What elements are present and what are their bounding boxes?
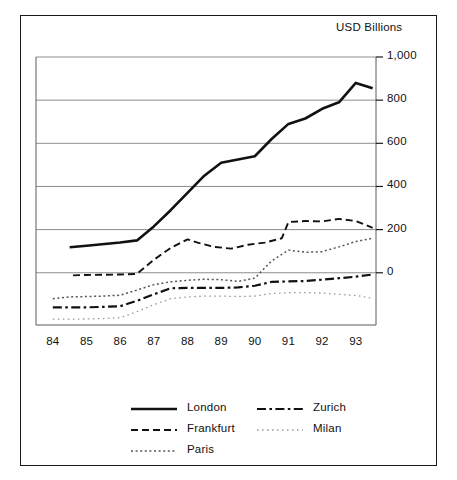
- gridlines: [36, 57, 376, 273]
- legend-key-london-icon: [130, 401, 178, 413]
- series-line-london: [70, 83, 373, 247]
- x-tick-label: 88: [171, 335, 203, 347]
- legend-label: Zurich: [313, 401, 346, 413]
- y-tick-label: 800: [387, 92, 407, 104]
- y-tick-label: 0: [387, 265, 394, 277]
- legend-key-milan-icon: [256, 422, 304, 434]
- x-tick-label: 84: [37, 335, 69, 347]
- x-tick-label: 89: [205, 335, 237, 347]
- x-tick-label: 92: [306, 335, 338, 347]
- legend-item-london[interactable]: London: [130, 396, 235, 417]
- x-tick-label: 85: [70, 335, 102, 347]
- legend-item-zurich[interactable]: Zurich: [256, 396, 346, 417]
- legend-key-paris-icon: [130, 443, 178, 455]
- legend-label: Frankfurt: [187, 422, 235, 434]
- x-tick-label: 93: [340, 335, 372, 347]
- x-tick-label: 90: [239, 335, 271, 347]
- legend-key-frankfurt-icon: [130, 422, 178, 434]
- series-line-frankfurt: [73, 219, 373, 276]
- y-tick-label: 1,000: [387, 49, 417, 61]
- legend-key-zurich-icon: [256, 401, 304, 413]
- series-lines: [53, 83, 373, 319]
- legend-item-milan[interactable]: Milan: [256, 417, 346, 438]
- legend-column: ZurichMilan: [256, 396, 346, 438]
- legend-label: London: [187, 401, 227, 413]
- legend-label: Milan: [313, 422, 341, 434]
- y-tick-label: 400: [387, 178, 407, 190]
- legend-label: Paris: [187, 443, 214, 455]
- legend-item-paris[interactable]: Paris: [130, 438, 235, 459]
- x-tick-label: 86: [104, 335, 136, 347]
- legend-item-frankfurt[interactable]: Frankfurt: [130, 417, 235, 438]
- series-line-milan: [53, 293, 373, 320]
- y-tick-label: 600: [387, 135, 407, 147]
- series-line-paris: [53, 238, 373, 298]
- legend-column: LondonFrankfurtParis: [130, 396, 235, 459]
- y-tick-label: 200: [387, 222, 407, 234]
- y-tick-marks: [376, 57, 383, 273]
- x-tick-label: 91: [272, 335, 304, 347]
- x-tick-label: 87: [138, 335, 170, 347]
- plot-frame: [36, 57, 376, 325]
